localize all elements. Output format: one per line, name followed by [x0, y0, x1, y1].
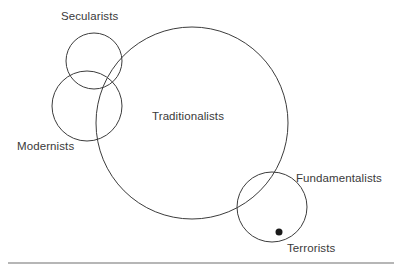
- euler-diagram-figure: Secularists Modernists Traditionalists F…: [0, 0, 407, 272]
- set-circle-traditionalists: [96, 27, 288, 219]
- label-terrorists: Terrorists: [287, 241, 335, 255]
- point-marker-terrorists: [276, 229, 283, 236]
- label-secularists: Secularists: [61, 9, 118, 23]
- set-circle-secularists: [66, 33, 122, 89]
- set-circle-modernists: [52, 71, 122, 141]
- label-traditionalists: Traditionalists: [152, 109, 224, 123]
- label-modernists: Modernists: [17, 139, 74, 153]
- label-fundamentalists: Fundamentalists: [296, 171, 382, 185]
- diagram-canvas: [0, 0, 407, 272]
